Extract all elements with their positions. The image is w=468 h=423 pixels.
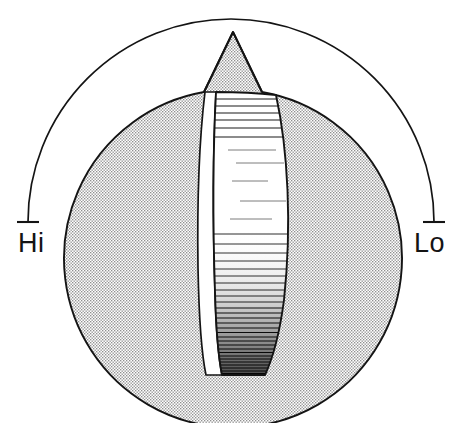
figure-canvas: Hi Lo (0, 0, 468, 423)
label-hi: Hi (18, 228, 45, 258)
label-lo: Lo (414, 228, 445, 258)
knob-illustration: Hi Lo (0, 0, 468, 423)
